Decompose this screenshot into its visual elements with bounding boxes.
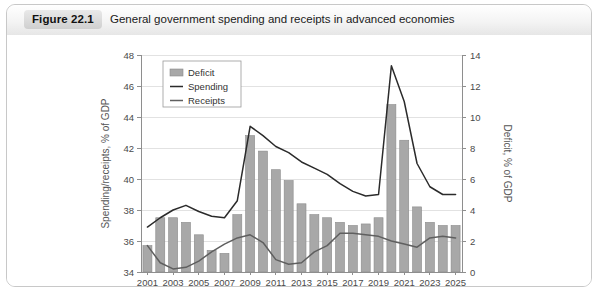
figure-header: Figure 22.1 General government spending … <box>7 5 591 36</box>
left-tick-label: 36 <box>123 236 134 247</box>
x-tick-label: 2013 <box>291 277 312 287</box>
right-tick-label: 14 <box>470 50 481 61</box>
right-axis-title: Deficit, % of GDP <box>502 125 513 203</box>
right-tick-label: 0 <box>470 267 475 278</box>
chart-plot-area: 3436384042444648024681012142001200320052… <box>7 35 591 287</box>
chart-svg: 3436384042444648024681012142001200320052… <box>7 35 591 287</box>
x-tick-label: 2005 <box>188 277 209 287</box>
deficit-bar <box>413 207 422 272</box>
x-tick-label: 2019 <box>368 277 389 287</box>
deficit-bar <box>246 136 255 272</box>
left-tick-label: 44 <box>123 112 134 123</box>
x-tick-label: 2023 <box>419 277 440 287</box>
right-tick-label: 8 <box>470 143 475 154</box>
x-tick-label: 2009 <box>240 277 261 287</box>
deficit-bar <box>169 218 178 272</box>
chart-legend: DeficitSpendingReceipts <box>163 61 241 107</box>
right-tick-label: 6 <box>470 174 475 185</box>
deficit-bar <box>284 181 293 272</box>
deficit-bar <box>361 224 370 272</box>
x-tick-label: 2007 <box>214 277 235 287</box>
deficit-bar <box>438 226 447 273</box>
x-tick-label: 2001 <box>137 277 158 287</box>
deficit-bar <box>387 105 396 272</box>
left-tick-label: 40 <box>123 174 134 185</box>
deficit-bar <box>400 140 409 272</box>
legend-swatch-deficit <box>170 69 183 76</box>
left-tick-label: 34 <box>123 267 134 278</box>
left-axis-title: Spending/receipts, % of GDP <box>100 98 111 228</box>
deficit-bar <box>374 218 383 272</box>
legend-label: Spending <box>188 81 228 92</box>
x-tick-label: 2011 <box>266 277 286 287</box>
deficit-bar <box>425 222 434 272</box>
deficit-bar <box>310 215 319 272</box>
right-tick-label: 12 <box>470 81 481 92</box>
x-tick-label: 2017 <box>342 277 363 287</box>
right-tick-label: 10 <box>470 112 481 123</box>
deficit-bar <box>181 222 190 272</box>
deficit-bar <box>348 226 357 273</box>
x-tick-label: 2003 <box>163 277 184 287</box>
deficit-bar <box>336 222 345 272</box>
figure-card: Figure 22.1 General government spending … <box>6 4 592 287</box>
legend-label: Deficit <box>188 67 215 78</box>
right-tick-label: 4 <box>470 205 475 216</box>
figure-title: General government spending and receipts… <box>110 13 455 25</box>
right-tick-label: 2 <box>470 236 475 247</box>
deficit-bar <box>233 215 242 272</box>
deficit-bar <box>220 253 229 272</box>
left-tick-label: 48 <box>123 50 134 61</box>
x-tick-label: 2025 <box>445 277 466 287</box>
deficit-bar <box>194 235 203 272</box>
deficit-bar <box>451 226 460 273</box>
left-tick-label: 38 <box>123 205 134 216</box>
deficit-bars <box>143 105 460 272</box>
left-tick-label: 42 <box>123 143 134 154</box>
x-tick-label: 2015 <box>317 277 338 287</box>
x-tick-label: 2021 <box>394 277 415 287</box>
deficit-bar <box>258 151 267 272</box>
legend-label: Receipts <box>188 95 225 106</box>
left-tick-label: 46 <box>123 81 134 92</box>
figure-number-badge: Figure 22.1 <box>24 10 102 29</box>
